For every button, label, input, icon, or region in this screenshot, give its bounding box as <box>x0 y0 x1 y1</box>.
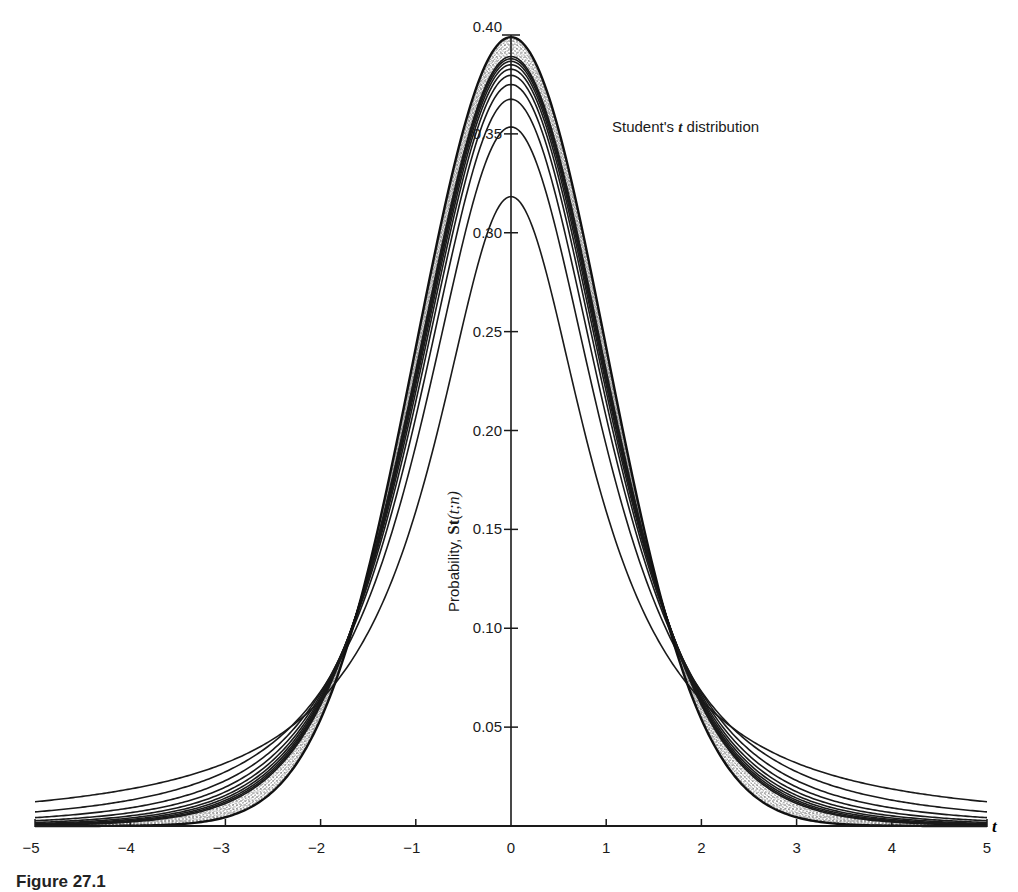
chart-title: Student's t distribution <box>612 118 759 135</box>
x-tick-label: 2 <box>697 839 705 856</box>
x-tick-label: −4 <box>118 839 135 856</box>
y-tick-label: 0.10 <box>473 619 502 636</box>
x-axis-label: t <box>992 817 998 836</box>
y-axis-label: Probability, St(t;n) <box>444 491 463 612</box>
x-tick-label: 1 <box>602 839 610 856</box>
y-tick-label: 0.40 <box>473 18 502 35</box>
x-tick-label: 0 <box>507 839 515 856</box>
y-tick-label: 0.30 <box>473 224 502 241</box>
x-tick-label: −1 <box>403 839 420 856</box>
x-tick-label: 3 <box>792 839 800 856</box>
y-tick-label: 0.35 <box>473 125 502 142</box>
x-tick-label: 4 <box>888 839 896 856</box>
x-tick-label: −3 <box>213 839 230 856</box>
x-tick-label: −5 <box>22 839 39 856</box>
x-tick-label: −2 <box>308 839 325 856</box>
y-axis-ticks: 0.050.100.150.200.250.300.350.40 <box>473 18 520 735</box>
y-tick-label: 0.15 <box>473 520 502 537</box>
figure-caption: Figure 27.1 <box>16 872 106 892</box>
y-tick-label: 0.20 <box>473 422 502 439</box>
y-tick-label: 0.25 <box>473 323 502 340</box>
x-tick-label: 5 <box>983 839 991 856</box>
y-tick-label: 0.05 <box>473 718 502 735</box>
